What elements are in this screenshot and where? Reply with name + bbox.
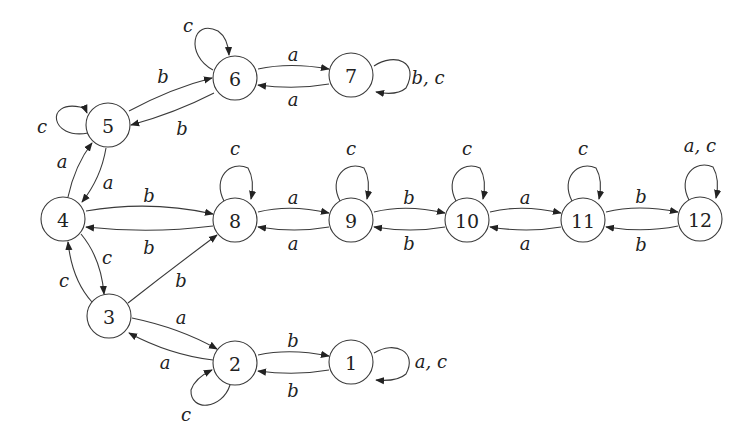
transition-8-to-9: a	[258, 187, 329, 214]
transition-label: a	[288, 233, 299, 254]
transition-label: c	[102, 247, 112, 268]
transition-11-to-10: a	[490, 227, 561, 254]
transition-arrow	[68, 143, 92, 197]
state-label: 9	[345, 210, 357, 232]
edges-layer: bbaacb, ccaabbccbcaacbbcaacbba, caabbca,…	[37, 15, 718, 425]
state-label: 7	[345, 65, 357, 87]
transition-label: a	[520, 187, 531, 208]
state-node-7: 7	[329, 53, 373, 97]
transition-label: c	[578, 138, 588, 159]
transition-label: a	[160, 352, 171, 373]
transition-arrow	[258, 227, 329, 230]
transition-label: c	[230, 138, 240, 159]
transition-arrow	[374, 60, 410, 94]
transition-label: a	[288, 44, 299, 65]
transition-label: b	[635, 186, 647, 207]
transition-label: b	[143, 185, 155, 206]
state-node-8: 8	[213, 198, 257, 242]
transition-arrow	[374, 208, 445, 213]
transition-label: c	[59, 270, 69, 291]
transition-2-to-1: b	[258, 330, 329, 357]
transition-label: a	[176, 307, 187, 328]
transition-label: a	[288, 187, 299, 208]
state-node-6: 6	[213, 56, 257, 100]
state-label: 1	[345, 352, 357, 374]
state-diagram: bbaacb, ccaabbccbcaacbbcaacbba, caabbca,…	[0, 0, 755, 444]
transition-3-to-2: a	[132, 307, 217, 350]
transition-arrow	[685, 165, 717, 200]
state-label: 10	[455, 210, 479, 232]
transition-label: a, c	[684, 135, 716, 156]
state-node-10: 10	[445, 198, 489, 242]
transition-arrow	[336, 166, 368, 201]
transition-arrow	[490, 208, 561, 213]
transition-label: c	[183, 15, 193, 36]
transition-label: c	[346, 138, 356, 159]
transition-11-to-12: b	[606, 186, 678, 213]
transition-10-to-9: b	[374, 227, 445, 254]
transition-label: b	[287, 330, 299, 351]
transition-label: c	[462, 138, 472, 159]
transition-arrow	[129, 333, 213, 360]
transition-10-to-11: a	[490, 187, 561, 214]
transition-arrow	[490, 227, 561, 230]
state-node-5: 5	[86, 103, 130, 147]
transition-label: b	[175, 270, 187, 291]
transition-arrow	[258, 66, 329, 70]
state-node-2: 2	[213, 341, 257, 385]
transition-9-to-8: a	[258, 227, 329, 254]
state-node-4: 4	[41, 197, 85, 241]
transition-4-to-5: a	[57, 143, 92, 197]
nodes-layer: 123456789101112	[41, 53, 722, 385]
transition-label: c	[37, 116, 47, 137]
transition-arrow	[220, 166, 252, 201]
state-node-11: 11	[561, 198, 605, 242]
transition-label: a, c	[415, 351, 447, 372]
state-label: 5	[102, 115, 114, 137]
state-node-9: 9	[329, 198, 373, 242]
transition-label: a	[288, 89, 299, 110]
transition-arrow	[452, 166, 484, 201]
transition-3-to-4: c	[59, 242, 92, 302]
transition-7-to-6: a	[258, 84, 329, 110]
state-label: 6	[229, 68, 241, 90]
transition-arrow	[258, 208, 329, 213]
transition-arrow	[132, 318, 217, 349]
transition-arrow	[131, 93, 214, 125]
transition-12-to-12: a, c	[684, 135, 718, 201]
transition-arrow	[258, 370, 329, 373]
transition-label: a	[103, 172, 114, 193]
state-label: 4	[57, 209, 69, 231]
state-label: 3	[103, 306, 115, 328]
transition-arrow	[86, 206, 213, 214]
transition-1-to-1: a, c	[374, 348, 447, 381]
transition-arrow	[129, 78, 212, 111]
transition-label: b	[176, 118, 188, 139]
transition-2-to-3: a	[129, 333, 213, 373]
transition-label: b	[635, 234, 647, 255]
transition-11-to-11: c	[568, 138, 600, 202]
transition-arrow	[568, 166, 600, 201]
transition-5-to-5: c	[37, 106, 88, 136]
transition-arrow	[606, 226, 678, 230]
transition-label: c	[181, 404, 191, 425]
transition-9-to-9: c	[336, 138, 368, 202]
transition-12-to-11: b	[606, 226, 678, 255]
transition-10-to-10: c	[452, 138, 484, 202]
transition-6-to-7: a	[258, 44, 329, 70]
transition-arrow	[258, 352, 329, 356]
transition-arrow	[56, 106, 88, 134]
transition-label: a	[57, 151, 68, 172]
transition-arrow	[68, 242, 92, 302]
state-label: 8	[229, 210, 241, 232]
state-label: 2	[229, 353, 241, 375]
transition-arrow	[81, 234, 104, 294]
transition-arrow	[374, 227, 445, 230]
transition-8-to-8: c	[220, 138, 252, 202]
transition-1-to-2: b	[258, 370, 329, 401]
transition-9-to-10: b	[374, 187, 445, 214]
state-node-3: 3	[87, 294, 131, 338]
transition-arrow	[128, 235, 217, 303]
transition-label: a	[520, 233, 531, 254]
transition-label: b	[403, 233, 415, 254]
